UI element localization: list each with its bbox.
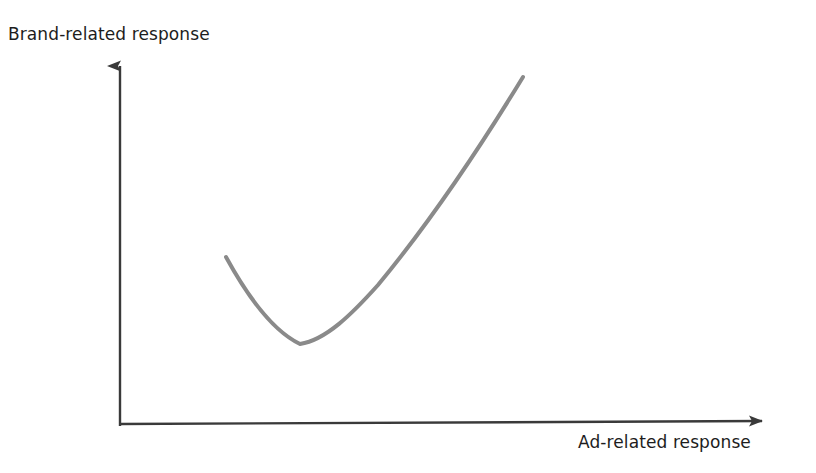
x-axis-label: Ad-related response [578,434,751,451]
response-curve [226,77,523,344]
y-axis-label: Brand-related response [8,26,210,43]
chart-canvas [0,0,816,473]
chart-figure: Brand-related response Ad-related respon… [0,0,816,473]
x-axis-line [120,421,762,424]
